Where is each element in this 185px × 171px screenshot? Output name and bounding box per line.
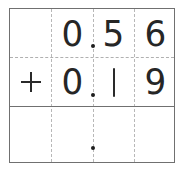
decimal-point [91,44,95,48]
cell-r2-c2: 0 [52,58,94,107]
cell-r2-c3 [93,58,135,107]
digit-ones: 0 [61,64,83,100]
worksheet: 0 5 6 0 9 [0,0,185,171]
decimal-point [91,146,95,150]
digit-hundredths: 9 [144,64,166,100]
answer-cell-c1[interactable] [10,106,52,162]
cell-r1-c4: 6 [135,9,177,58]
cell-r1-c3: 5 [93,9,135,58]
plus-sign-icon [21,72,41,92]
digit-hundredths: 6 [144,16,166,52]
addition-grid: 0 5 6 0 9 [9,8,175,163]
decimal-point [91,93,95,97]
answer-cell-ones[interactable] [52,106,94,162]
digit-one-glyph [113,68,116,97]
cell-r2-c4: 9 [135,58,177,107]
cell-r1-c2: 0 [52,9,94,58]
answer-cell-hundredths[interactable] [135,106,177,162]
answer-cell-tenths[interactable] [93,106,135,162]
digit-tenths: 5 [103,16,125,52]
cell-r1-c1 [10,9,52,58]
cell-r2-c1 [10,58,52,107]
digit-ones: 0 [61,16,83,52]
